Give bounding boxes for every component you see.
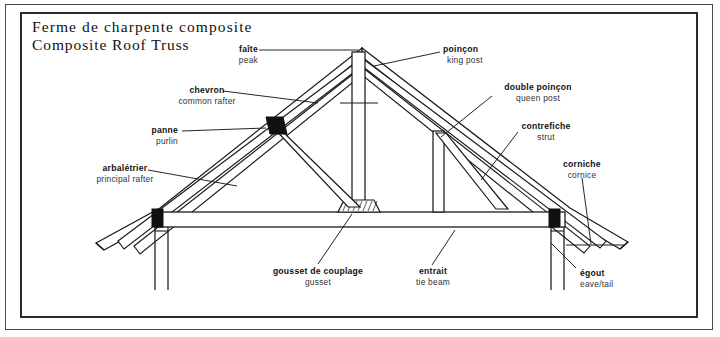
queen-post <box>433 131 444 212</box>
strut-left <box>270 124 360 207</box>
label-common-rafter: chevron common rafter <box>152 85 262 106</box>
label-principal-rafter: arbalétrier principal rafter <box>70 163 180 184</box>
label-purlin: panne purlin <box>110 125 178 146</box>
label-queen-post: double poinçon queen post <box>483 82 593 103</box>
label-cornice: corniche cornice <box>545 159 619 180</box>
purlin-block <box>266 117 287 134</box>
label-king-post: poinçon king post <box>443 44 483 65</box>
label-gusset: gousset de couplage gusset <box>243 266 393 287</box>
label-eave: égout eave/tail <box>580 268 613 289</box>
tie-beam <box>155 212 565 227</box>
label-strut: contrefiche strut <box>507 121 585 142</box>
leader-king-post <box>374 52 440 66</box>
diagram-page: Ferme de charpente composite Composite R… <box>0 0 720 337</box>
leader-tie-beam <box>432 230 455 265</box>
leader-purlin <box>182 128 266 131</box>
label-peak: faîte peak <box>178 44 258 65</box>
label-tie-beam: entrait tie beam <box>396 266 470 287</box>
eave-tails <box>96 242 628 250</box>
